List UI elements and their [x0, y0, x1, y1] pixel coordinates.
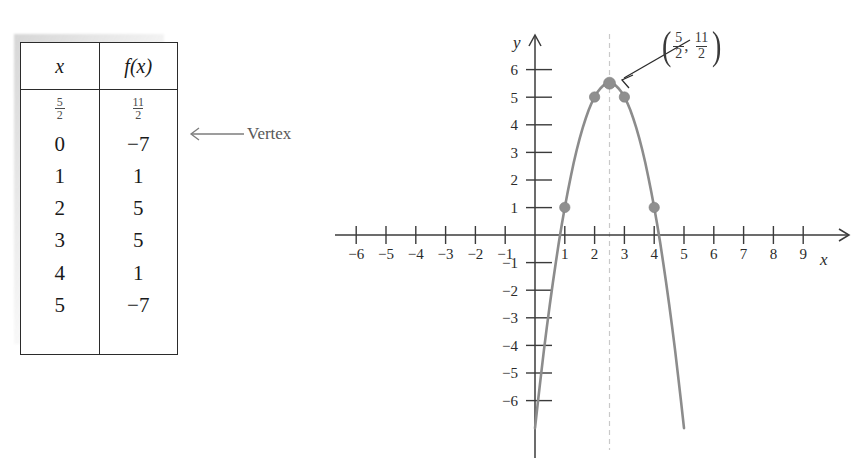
cell-x: 2 [21, 192, 100, 224]
cell-fx-vertex: 11 2 [99, 90, 178, 128]
x-tick-labels: −6 −5 −4 −3 −2 −1 1 2 3 4 5 6 7 8 9 [348, 246, 807, 262]
x-tick-label: 3 [621, 246, 629, 262]
x-tick-label: 6 [710, 246, 718, 262]
cell-spacer [99, 322, 178, 355]
y-tick-label: −2 [502, 283, 518, 299]
data-point [649, 202, 659, 212]
y-tick-label: −1 [502, 255, 518, 271]
table-header-fx: f(x) [99, 43, 178, 90]
table-row: 4 1 [21, 257, 178, 289]
data-point [619, 92, 629, 102]
table-row: 3 5 [21, 225, 178, 257]
x-tick-label: −3 [438, 246, 454, 262]
cell-fx: 5 [99, 225, 178, 257]
cell-fx: 1 [99, 160, 178, 192]
vertex-callout: Vertex [186, 124, 291, 144]
y-tick-label: 2 [511, 172, 519, 188]
vertex-y-fraction: 11 2 [693, 31, 710, 61]
x-tick-label: 5 [680, 246, 688, 262]
table-row: 2 5 [21, 192, 178, 224]
y-tick-label: 3 [511, 145, 519, 161]
data-point [560, 202, 570, 212]
x-tick-label: 7 [740, 246, 748, 262]
vertex-coordinate-label: ( 5 2 , 11 2 ) [660, 26, 724, 66]
table-row-vertex: 5 2 11 2 [21, 90, 178, 128]
fraction-eleven-halves: 11 2 [130, 96, 146, 121]
table-body: 5 2 11 2 0 −7 1 1 2 [21, 90, 178, 355]
y-axis-label: y [511, 33, 521, 52]
x-tick-label: −4 [408, 246, 424, 262]
table-header-row: x f(x) [21, 43, 178, 90]
y-tick-label: −5 [502, 365, 518, 381]
vertex-point [604, 77, 616, 89]
vertex-callout-label: Vertex [247, 124, 291, 144]
x-tick-label: 4 [650, 246, 658, 262]
cell-x: 5 [21, 289, 100, 321]
y-tick-label: −6 [502, 393, 518, 409]
left-arrow-icon [186, 125, 246, 143]
cell-fx: 5 [99, 192, 178, 224]
y-tick-label: 1 [511, 200, 519, 216]
table-head: x f(x) [21, 43, 178, 90]
data-point [589, 92, 599, 102]
parabola-graph: −6 −5 −4 −3 −2 −1 1 2 3 4 5 6 7 8 9 6 5 … [330, 18, 864, 470]
table-header-x: x [21, 43, 100, 90]
x-tick-label: 8 [770, 246, 778, 262]
x-axis-label: x [819, 250, 828, 269]
fraction-five-halves: 5 2 [55, 96, 65, 121]
table-header-fx-label: f(x) [124, 55, 152, 77]
x-tick-label: 9 [799, 246, 807, 262]
y-tick-label: 4 [511, 117, 519, 133]
cell-spacer [21, 322, 100, 355]
cell-fx: 1 [99, 257, 178, 289]
cell-x: 4 [21, 257, 100, 289]
x-tick-label: 2 [591, 246, 599, 262]
cell-fx: −7 [99, 289, 178, 321]
paren-open: ( [662, 26, 671, 66]
x-tick-label: 1 [561, 246, 569, 262]
cell-x: 0 [21, 128, 100, 160]
value-table-panel: x f(x) 5 2 11 2 [20, 42, 178, 355]
paren-close: ) [712, 26, 721, 66]
cell-fx: −7 [99, 128, 178, 160]
y-tick-label: 5 [511, 90, 519, 106]
table-row: 1 1 [21, 160, 178, 192]
y-tick-label: 6 [511, 62, 519, 78]
cell-x: 3 [21, 225, 100, 257]
table-spacer-row [21, 322, 178, 355]
x-tick-label: −2 [467, 246, 483, 262]
cell-x-vertex: 5 2 [21, 90, 100, 128]
table-row: 5 −7 [21, 289, 178, 321]
cell-x: 1 [21, 160, 100, 192]
graph-canvas: −6 −5 −4 −3 −2 −1 1 2 3 4 5 6 7 8 9 6 5 … [330, 18, 864, 470]
y-tick-label: −3 [502, 310, 518, 326]
table-row: 0 −7 [21, 128, 178, 160]
x-tick-label: −5 [378, 246, 394, 262]
y-tick-label: −4 [502, 338, 518, 354]
x-tick-label: −6 [348, 246, 364, 262]
value-table: x f(x) 5 2 11 2 [20, 42, 178, 355]
vertex-x-fraction: 5 2 [673, 31, 684, 61]
